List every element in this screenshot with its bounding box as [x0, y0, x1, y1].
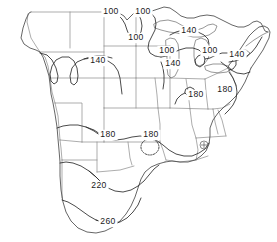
- contour-value-label: 180: [217, 84, 233, 94]
- contour-value-label: 180: [188, 89, 204, 99]
- contour-value-label: 180: [143, 129, 159, 139]
- st-lawrence: [246, 32, 268, 46]
- contour-value-label: 100: [128, 32, 144, 42]
- contour-value-label: 260: [100, 216, 116, 226]
- station-marker-group: [200, 141, 208, 149]
- contour-value-label: 140: [181, 25, 197, 35]
- contour-value-label: 100: [202, 45, 218, 55]
- contour-value-label: 180: [100, 129, 116, 139]
- contour-value-label: 100: [159, 45, 175, 55]
- contour-180-ohio-tail: [175, 93, 185, 104]
- contour-lines: [40, 11, 262, 224]
- contour-220: [60, 162, 159, 192]
- contour-map-figure: 1001001001401401001401001401801801801802…: [0, 0, 277, 242]
- contour-180-central: [57, 125, 209, 156]
- contour-value-label: 100: [135, 6, 151, 16]
- contour-180-closed-dashed: [141, 139, 159, 155]
- contour-value-label: 220: [91, 180, 107, 190]
- contour-value-label: 140: [229, 49, 245, 59]
- contour-140-main: [40, 53, 122, 94]
- contour-value-label: 140: [165, 58, 181, 68]
- map-canvas: 1001001001401401001401001401801801801802…: [0, 0, 277, 242]
- contour-value-label: 140: [90, 55, 106, 65]
- contour-value-label: 100: [103, 6, 119, 16]
